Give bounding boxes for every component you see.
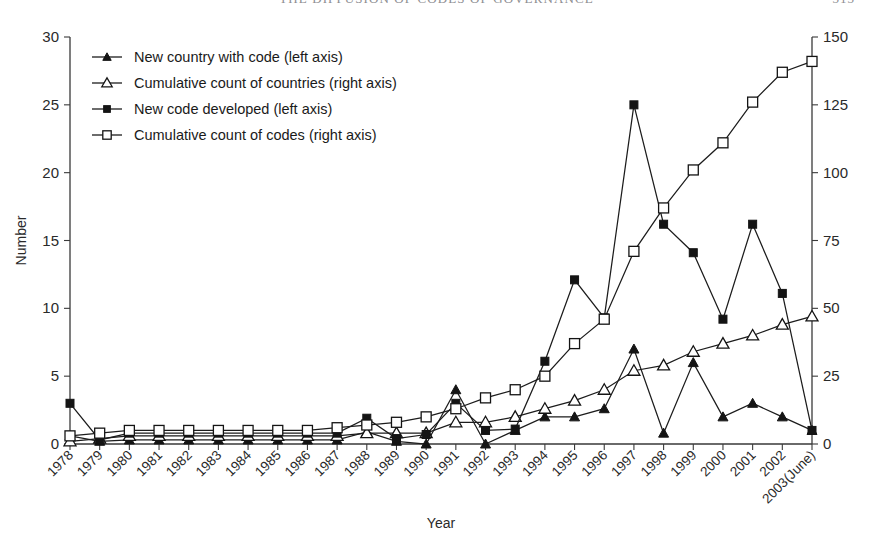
series-1: [64, 310, 818, 445]
marker-filled-triangle: [718, 412, 728, 421]
y-axis-title: Number: [13, 215, 29, 265]
marker-open-square: [659, 203, 669, 213]
legend-item-0[interactable]: New country with code (left axis): [92, 49, 343, 65]
x-tick-label: 1992: [460, 448, 492, 480]
series-0: [65, 344, 817, 448]
marker-filled-triangle: [659, 428, 669, 437]
marker-open-triangle: [658, 359, 670, 370]
marker-open-triangle: [450, 416, 462, 427]
y2-tick-label: 125: [823, 96, 848, 113]
x-tick-label: 1996: [579, 448, 611, 480]
series-polyline: [70, 105, 812, 440]
x-tick-label: 1994: [519, 447, 551, 479]
marker-open-square: [481, 393, 491, 403]
y2-tick-label: 150: [823, 28, 848, 45]
marker-filled-square: [778, 289, 786, 297]
x-tick-label: 1988: [341, 448, 373, 480]
marker-filled-square: [541, 357, 549, 365]
y2-tick-label: 25: [823, 367, 840, 384]
x-tick-label: 1985: [252, 448, 284, 480]
marker-filled-square: [630, 101, 638, 109]
marker-open-square: [718, 138, 728, 148]
x-tick-label: 1983: [193, 448, 225, 480]
marker-open-square: [540, 371, 550, 381]
series-polyline: [70, 349, 812, 444]
legend-label: Cumulative count of countries (right axi…: [134, 75, 397, 91]
legend-item-1[interactable]: Cumulative count of countries (right axi…: [92, 75, 397, 91]
marker-open-square: [451, 404, 461, 414]
marker-filled-triangle: [777, 412, 787, 421]
marker-open-triangle: [102, 78, 112, 87]
marker-filled-triangle: [599, 404, 609, 413]
marker-filled-triangle: [748, 398, 758, 407]
legend-label: New country with code (left axis): [134, 49, 343, 65]
marker-open-square: [213, 425, 223, 435]
marker-open-square: [391, 417, 401, 427]
marker-filled-square: [808, 426, 816, 434]
y-tick-label: 30: [42, 28, 59, 45]
marker-open-square: [362, 420, 372, 430]
x-tick-label: 1982: [163, 448, 195, 480]
marker-open-triangle: [806, 310, 818, 321]
x-tick-label: 1991: [430, 448, 462, 480]
x-axis-ticks: 1978197919801981198219831984198519861987…: [44, 444, 818, 506]
marker-open-square: [95, 428, 105, 438]
marker-filled-square: [422, 431, 430, 439]
marker-filled-square: [511, 425, 519, 433]
legend-item-2[interactable]: New code developed (left axis): [92, 101, 332, 117]
y-tick-label: 20: [42, 164, 59, 181]
marker-open-square: [243, 425, 253, 435]
x-tick-label: 1984: [222, 447, 254, 479]
marker-filled-square: [482, 426, 490, 434]
x-tick-label: 1979: [74, 448, 106, 480]
y2-tick-label: 0: [823, 435, 831, 452]
marker-open-square: [273, 425, 283, 435]
marker-filled-square: [392, 435, 400, 443]
series-2: [66, 101, 816, 444]
marker-filled-triangle: [629, 344, 639, 353]
marker-filled-square: [66, 399, 74, 407]
marker-open-square: [302, 425, 312, 435]
marker-open-square: [629, 246, 639, 256]
marker-open-square: [570, 339, 580, 349]
marker-filled-square: [689, 249, 697, 257]
marker-open-square: [777, 67, 787, 77]
x-axis-title: Year: [427, 515, 456, 531]
right-axis-ticks: 0255075100125150: [812, 28, 848, 452]
marker-filled-square: [719, 315, 727, 323]
x-tick-label: 1980: [104, 448, 136, 480]
y2-tick-label: 100: [823, 164, 848, 181]
x-tick-label: 1999: [668, 448, 700, 480]
left-axis-ticks: 051015202530: [42, 28, 70, 452]
chart-canvas: 051015202530 0255075100125150 1978197919…: [0, 0, 873, 550]
y2-tick-label: 50: [823, 299, 840, 316]
marker-open-square: [332, 423, 342, 433]
series-polyline: [70, 316, 812, 441]
marker-open-square: [124, 425, 134, 435]
marker-filled-square: [104, 106, 111, 113]
marker-filled-square: [571, 276, 579, 284]
x-tick-label: 1997: [608, 448, 640, 480]
y-tick-label: 5: [51, 367, 59, 384]
marker-open-square: [103, 131, 111, 139]
chart-figure: 051015202530 0255075100125150 1978197919…: [0, 0, 873, 550]
legend-item-3[interactable]: Cumulative count of codes (right axis): [92, 127, 377, 143]
marker-filled-square: [749, 220, 757, 228]
marker-open-square: [748, 97, 758, 107]
marker-open-square: [65, 431, 75, 441]
y2-tick-label: 75: [823, 232, 840, 249]
marker-open-square: [688, 165, 698, 175]
marker-open-square: [184, 425, 194, 435]
y-tick-label: 15: [42, 232, 59, 249]
marker-open-square: [807, 56, 817, 66]
legend-label: Cumulative count of codes (right axis): [134, 127, 377, 143]
marker-open-triangle: [598, 384, 610, 395]
marker-filled-square: [660, 220, 668, 228]
y-tick-label: 0: [51, 435, 59, 452]
x-tick-label: 1989: [371, 448, 403, 480]
axes-group: [70, 37, 812, 444]
x-tick-label: 2000: [697, 448, 729, 480]
x-tick-label: 2001: [727, 448, 759, 480]
marker-open-triangle: [569, 395, 581, 406]
series-polyline: [70, 61, 812, 435]
